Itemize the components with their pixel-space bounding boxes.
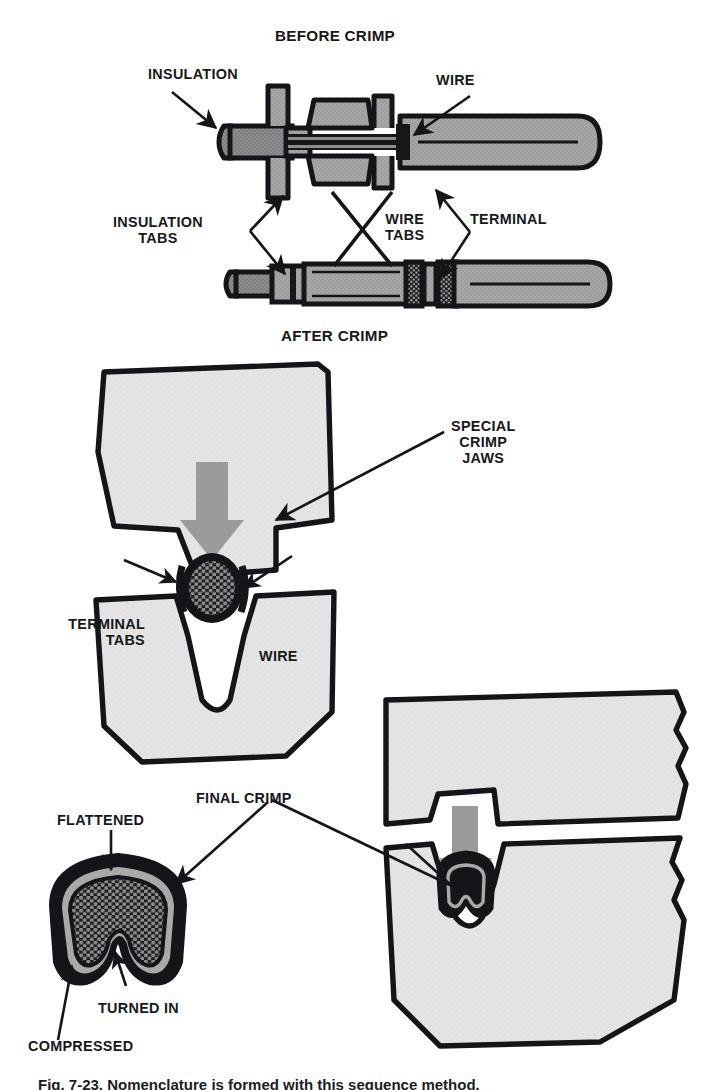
leader-final-crimp-section xyxy=(176,802,268,884)
figure-caption: Fig. 7-23. Nomenclature is formed with t… xyxy=(38,1076,678,1090)
label-insulation: INSULATION xyxy=(148,66,238,82)
title-after-crimp: AFTER CRIMP xyxy=(281,327,388,344)
label-turned-in: TURNED IN xyxy=(98,1000,179,1016)
label-wire-middle: WIRE xyxy=(259,648,298,664)
label-insulation-tabs: INSULATION TABS xyxy=(113,214,203,246)
label-wire-tabs: WIRE TABS xyxy=(385,211,424,243)
label-final-crimp: FINAL CRIMP xyxy=(196,790,292,806)
label-wire-top: WIRE xyxy=(436,72,475,88)
bottom-panel-artwork xyxy=(0,0,711,1090)
upper-crimp-jaw-final xyxy=(386,692,686,824)
label-special-crimp-jaws: SPECIAL CRIMP JAWS xyxy=(451,418,515,466)
label-flattened: FLATTENED xyxy=(57,812,144,828)
label-terminal: TERMINAL xyxy=(470,211,547,227)
label-terminal-tabs: TERMINAL TABS xyxy=(57,616,145,648)
title-before-crimp: BEFORE CRIMP xyxy=(275,27,395,44)
lower-crimp-jaw-final xyxy=(386,838,684,1046)
label-compressed: COMPRESSED xyxy=(28,1038,133,1054)
figure-canvas: BEFORE CRIMP INSULATION WIRE INSULATION … xyxy=(0,0,711,1090)
